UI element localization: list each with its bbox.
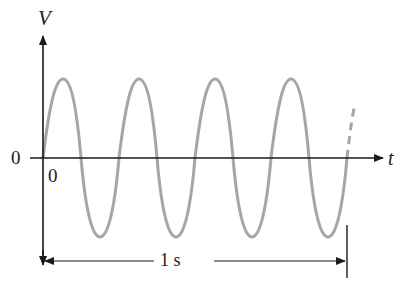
span-label: 1 s [160,251,181,269]
origin-label-below: 0 [48,166,58,185]
origin-label-left: 0 [11,148,21,167]
sine-wave-figure: V t 0 0 1 s [0,0,400,300]
y-axis-label: V [38,8,51,29]
wave-continuation-dashed [347,108,354,158]
figure-canvas [0,0,400,300]
x-axis-label: t [388,148,394,168]
